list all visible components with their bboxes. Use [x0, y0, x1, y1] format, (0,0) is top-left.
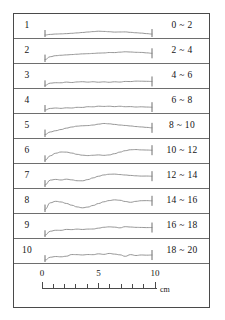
- row-index: 3: [14, 64, 40, 88]
- scale-label-0: 0: [40, 269, 45, 278]
- row-index: 10: [14, 239, 40, 263]
- row-index: 5: [14, 114, 40, 138]
- scale-label-5: 5: [96, 269, 101, 278]
- row-depth-range: 16 ~ 18: [155, 214, 209, 238]
- row-depth-range: 2 ~ 4: [155, 39, 209, 63]
- row-index: 4: [14, 89, 40, 113]
- table-row: 2 2 ~ 4: [14, 39, 209, 64]
- row-depth-range: 14 ~ 16: [155, 189, 209, 213]
- row-index: 6: [14, 139, 40, 163]
- profile-trace-4: [40, 89, 157, 113]
- row-index: 7: [14, 164, 40, 188]
- row-index: 1: [14, 14, 40, 38]
- table-row: 10 18 ~ 20: [14, 239, 209, 264]
- table-row: 9 16 ~ 18: [14, 214, 209, 239]
- profile-trace-6: [40, 139, 157, 163]
- profile-trace-1: [40, 14, 157, 38]
- row-depth-range: 10 ~ 12: [155, 139, 209, 163]
- row-index: 2: [14, 39, 40, 63]
- scale-tick-labels: 0 5 10: [40, 269, 157, 281]
- table-row: 7 12 ~ 14: [14, 164, 209, 189]
- scale-ruler-icon: [40, 281, 165, 295]
- scale-bar-row: 0 5 10: [14, 264, 209, 307]
- row-index: 9: [14, 214, 40, 238]
- profile-trace-9: [40, 214, 157, 238]
- profile-trace-3: [40, 64, 157, 88]
- row-depth-range: 4 ~ 6: [155, 64, 209, 88]
- profile-trace-10: [40, 239, 157, 263]
- table-row: 3 4 ~ 6: [14, 64, 209, 89]
- table-row: 5 8 ~ 10: [14, 114, 209, 139]
- table-row: 1 0 ~ 2: [14, 14, 209, 39]
- row-depth-range: 12 ~ 14: [155, 164, 209, 188]
- row-depth-range: 6 ~ 8: [155, 89, 209, 113]
- table-row: 8 14 ~ 16: [14, 189, 209, 214]
- scale-label-10: 10: [151, 269, 160, 278]
- profile-figure: 1 0 ~ 2 2 2 ~ 4 3 4 ~ 6 4 6 ~ 8 5 8 ~ 10…: [13, 13, 210, 308]
- row-depth-range: 8 ~ 10: [155, 114, 209, 138]
- profile-trace-8: [40, 189, 157, 213]
- row-depth-range: 18 ~ 20: [155, 239, 209, 263]
- scale-unit-label: cm: [160, 286, 170, 294]
- row-depth-range: 0 ~ 2: [155, 14, 209, 38]
- table-row: 4 6 ~ 8: [14, 89, 209, 114]
- profile-trace-2: [40, 39, 157, 63]
- table-row: 6 10 ~ 12: [14, 139, 209, 164]
- scale-bar: 0 5 10: [40, 269, 180, 303]
- row-index: 8: [14, 189, 40, 213]
- profile-trace-7: [40, 164, 157, 188]
- profile-trace-5: [40, 114, 157, 138]
